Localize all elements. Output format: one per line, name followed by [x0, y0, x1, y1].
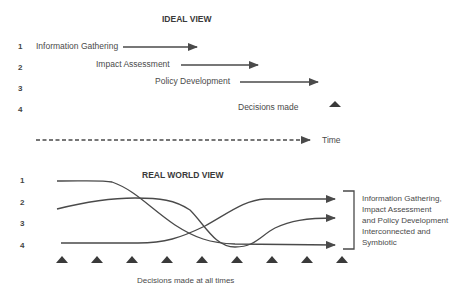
decision-triangle-icon — [231, 256, 243, 263]
diagram-canvas: IDEAL VIEW 1 2 3 4 Information Gathering… — [0, 0, 465, 294]
bracket-note-line-2: Impact Assessment — [362, 205, 432, 214]
decision-triangle-icon — [329, 101, 341, 107]
decision-triangle-icon — [301, 256, 313, 263]
ideal-view-title: IDEAL VIEW — [162, 14, 212, 24]
bracket-note-line-3: and Policy Development — [362, 216, 449, 225]
ideal-row-number-4: 4 — [18, 105, 23, 114]
real-row-number-1: 1 — [20, 176, 25, 185]
decision-triangle-icon — [56, 256, 68, 263]
real-row-number-2: 2 — [20, 198, 25, 207]
real-row-number-3: 3 — [20, 219, 25, 228]
decision-triangle-icon — [126, 256, 138, 263]
decision-markers — [56, 256, 348, 263]
process-curve-1 — [57, 181, 335, 245]
decision-triangle-icon — [196, 256, 208, 263]
decision-triangle-icon — [91, 256, 103, 263]
bracket-note-line-4: Interconnected and — [362, 227, 431, 236]
decision-triangle-icon — [266, 256, 278, 263]
ideal-decisions-label: Decisions made — [238, 102, 299, 112]
decision-triangle-icon — [336, 256, 348, 263]
stage-label-policy-development: Policy Development — [155, 76, 231, 86]
real-world-view-title: REAL WORLD VIEW — [142, 170, 225, 180]
ideal-row-number-3: 3 — [18, 84, 23, 93]
bracket-note-line-5: Symbiotic — [362, 238, 397, 247]
decision-triangle-icon — [161, 256, 173, 263]
real-decisions-label: Decisions made at all times — [137, 276, 234, 285]
bracket — [343, 191, 354, 249]
real-row-number-4: 4 — [20, 241, 25, 250]
ideal-row-number-2: 2 — [18, 63, 23, 72]
stage-label-information-gathering: Information Gathering — [36, 41, 118, 51]
stage-label-impact-assessment: Impact Assessment — [96, 59, 170, 69]
process-curve-2 — [57, 198, 335, 247]
time-label: Time — [322, 135, 341, 145]
ideal-row-number-1: 1 — [18, 42, 23, 51]
bracket-note-line-1: Information Gathering, — [362, 194, 442, 203]
